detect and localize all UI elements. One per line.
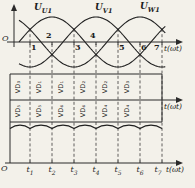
phase-label-uu1: UU1 [34,3,52,14]
conduction-row1-interval3: VD₁ [58,76,68,98]
bottom-origin-label: O [1,165,8,173]
phase-label-uw1: UW1 [140,2,160,13]
time-tick-t2: t2 [45,166,59,176]
time-tick-t7-sub: 7 [158,169,162,176]
time-tick-t7: t7 [151,166,165,176]
commutation-point-2: 2 [46,31,52,39]
phase-label-uu1-base: U [34,2,42,12]
time-tick-t3: t3 [67,166,81,176]
middle-time-axis-label: t(ωt) [164,103,182,111]
phase-label-uv1-base: U [95,2,103,12]
commutation-point-6: 6 [141,43,147,51]
conduction-row2-interval3: VD₆ [58,100,68,122]
bottom-time-axis-label: t(ωt) [166,166,184,174]
conduction-row1-interval1: VD₃ [15,76,25,98]
commutation-point-5: 5 [119,43,125,51]
conduction-row1-interval5: VD₂ [102,76,112,98]
conduction-row2-interval2: VD₅ [36,100,46,122]
conduction-row1-interval4: VD₂ [80,76,90,98]
conduction-row2-interval5: VD₄ [102,100,112,122]
phase-label-uu1-sub: U1 [42,7,52,15]
phase-label-uv1-sub: V1 [103,7,113,15]
time-tick-t4-sub: 4 [96,169,100,176]
time-tick-t2-sub: 2 [52,169,56,176]
top-origin-label: O [2,35,9,43]
time-tick-t6: t6 [133,166,147,176]
commutation-point-3: 3 [75,43,81,51]
time-tick-t3-sub: 3 [74,169,78,176]
output-ripple-wave [10,125,162,128]
time-tick-t5: t5 [111,166,125,176]
conduction-row1-interval6: VD₃ [124,76,134,98]
phase-label-uw1-base: U [140,1,148,11]
commutation-point-4: 4 [90,31,96,39]
top-time-axis-label: t(ωt) [164,45,182,53]
conduction-row2-interval6: VD₄ [124,100,134,122]
time-tick-t5-sub: 5 [118,169,122,176]
voltage-axis-arrow-icon [11,4,17,11]
time-tick-t1: t1 [23,166,37,176]
three-phase-rectifier-waveform-figure: UU1 UV1 UW1 O O t(ωt) t(ωt) t(ωt) 1 2 3 … [0,0,195,188]
phase-label-uw1-sub: W1 [148,6,160,14]
waveform-canvas [0,0,195,188]
conduction-row2-interval4: VD₆ [80,100,90,122]
time-tick-t1-sub: 1 [30,169,34,176]
conduction-row1-interval2: VD₁ [36,76,46,98]
conduction-row2-interval1: VD₅ [15,100,25,122]
time-tick-t4: t4 [89,166,103,176]
phase-label-uv1: UV1 [95,3,112,14]
commutation-point-1: 1 [31,43,37,51]
commutation-point-7: 7 [154,43,160,51]
time-tick-t6-sub: 6 [140,169,144,176]
